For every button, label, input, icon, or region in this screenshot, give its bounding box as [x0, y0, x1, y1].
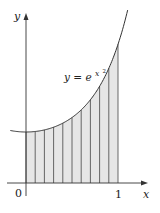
svg-text:y = e x 2: y = e x 2: [63, 66, 106, 83]
origin-label: 0: [15, 187, 22, 200]
riemann-area-diagram: y x 0 1 y = e x 2: [0, 0, 160, 213]
y-axis-label: y: [13, 10, 21, 23]
function-label-exponent-power: 2: [103, 68, 107, 74]
x-axis-arrow-icon: [141, 181, 148, 186]
y-axis-arrow-icon: [24, 13, 29, 20]
function-label-exponent: x: [95, 69, 100, 78]
x-tick-label-1: 1: [115, 188, 122, 201]
function-label: y = e x 2: [63, 66, 106, 83]
function-label-base: y = e: [63, 71, 92, 83]
x-axis-label: x: [143, 188, 150, 201]
